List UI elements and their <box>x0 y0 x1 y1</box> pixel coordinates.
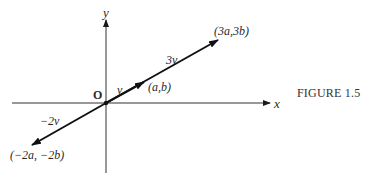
figure-caption: FIGURE 1.5 <box>297 87 360 99</box>
vector-v-label: v⃗ <box>117 84 132 96</box>
vector-3v-label: 3v⃗ <box>166 54 187 66</box>
point-a-b-label: (a,b) <box>148 81 171 93</box>
point-neg-2a-neg-2b-label: (−2a, −2b) <box>10 149 64 161</box>
point-3a-3b-label: (3a,3b) <box>214 25 249 37</box>
y-axis-label: y <box>103 6 109 19</box>
origin-point <box>104 101 108 105</box>
vector-scaling-figure: y x O v⃗ (a,b) 3v⃗ (3a,3b) −2v⃗ (−2a, −2… <box>0 0 375 183</box>
x-axis-label: x <box>274 97 280 110</box>
origin-label: O <box>93 89 102 101</box>
vector-neg-2v-label: −2v⃗ <box>40 115 69 127</box>
